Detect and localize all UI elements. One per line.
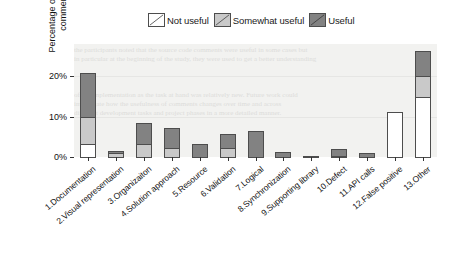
y-tick-mark <box>70 157 74 158</box>
y-tick-label: 10% <box>49 112 67 122</box>
x-tick-mark <box>423 157 424 161</box>
legend-label-useful: Useful <box>328 15 354 26</box>
gridline <box>74 117 437 118</box>
x-tick-label-12: 12.False positive <box>351 164 405 212</box>
bar-segment-some <box>136 144 152 158</box>
x-tick-label-13: 13.Other <box>401 164 432 192</box>
legend-entry-somewhat-useful: Somewhat useful <box>214 13 304 27</box>
bar-4 <box>164 128 180 157</box>
bar-segment-use <box>192 144 208 158</box>
hatch-lightgray-swatch <box>214 13 231 27</box>
chart-figure: Not useful Somewhat useful Useful the pa… <box>0 0 466 267</box>
bar-segment-use <box>164 128 180 149</box>
bar-segment-not <box>415 97 431 158</box>
bar-segment-use <box>80 73 96 117</box>
x-tick-mark <box>228 157 229 161</box>
bar-segment-some <box>415 76 431 98</box>
legend-entry-not-useful: Not useful <box>148 13 209 27</box>
y-tick-mark <box>70 76 74 77</box>
bar-segment-use <box>415 51 431 77</box>
bar-3 <box>136 123 152 157</box>
x-tick-mark <box>311 157 312 161</box>
y-tick-label: 0% <box>54 152 67 162</box>
watermark-line-3: of the implementation as the task at han… <box>74 91 437 100</box>
bar-12 <box>387 112 403 157</box>
x-tick-mark <box>256 157 257 161</box>
bar-7 <box>248 131 264 157</box>
bar-segment-use <box>136 123 152 145</box>
y-tick-mark <box>70 117 74 118</box>
bar-segment-some <box>80 117 96 145</box>
x-tick-mark <box>200 157 201 161</box>
hatch-white-swatch <box>148 13 165 27</box>
bar-6 <box>220 134 236 157</box>
x-tick-mark <box>395 157 396 161</box>
y-axis-label: Percentage of overall comments <box>47 0 69 70</box>
bar-segment-not <box>80 144 96 158</box>
x-tick-mark <box>172 157 173 161</box>
watermark-line-1: the participants noted that the source c… <box>74 46 437 55</box>
x-tick-mark <box>116 157 117 161</box>
plot-area: the participants noted that the source c… <box>74 44 437 157</box>
chart-legend: Not useful Somewhat useful Useful <box>148 13 359 27</box>
bar-segment-use <box>220 134 236 149</box>
x-tick-mark <box>283 157 284 161</box>
bar-segment-use <box>248 131 264 158</box>
bar-segment-not <box>387 112 403 158</box>
y-tick-label: 20% <box>49 71 67 81</box>
bar-5 <box>192 144 208 157</box>
x-tick-mark <box>367 157 368 161</box>
hatch-darkgray-swatch <box>309 13 326 27</box>
legend-label-not-useful: Not useful <box>167 15 209 26</box>
watermark-line-2: in particular at the beginning of the st… <box>74 55 437 64</box>
bar-10 <box>331 149 347 157</box>
x-tick-mark <box>88 157 89 161</box>
watermark-line-4: investigate how the usefulness of commen… <box>74 100 437 109</box>
legend-entry-useful: Useful <box>309 13 354 27</box>
x-tick-mark <box>144 157 145 161</box>
bar-1 <box>80 73 96 157</box>
legend-label-somewhat-useful: Somewhat useful <box>233 15 304 26</box>
bar-13 <box>415 51 431 157</box>
x-tick-mark <box>339 157 340 161</box>
gridline <box>74 76 437 77</box>
